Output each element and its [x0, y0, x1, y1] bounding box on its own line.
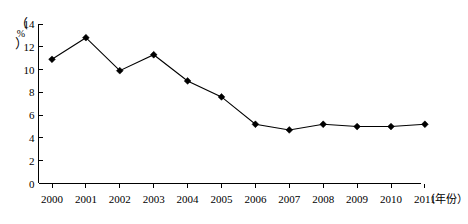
data-point-marker — [49, 56, 56, 63]
y-axis-unit-label: （ % ） — [15, 16, 28, 52]
line-chart: 02468101214 2000200120022003200420052006… — [0, 0, 468, 224]
data-point-marker — [354, 123, 361, 130]
y-tick-label: 6 — [29, 109, 35, 121]
y-tick-label: 10 — [24, 64, 36, 76]
data-point-marker — [388, 123, 395, 130]
x-tick-label: 2010 — [380, 193, 403, 205]
x-tick-label: 2005 — [211, 193, 234, 205]
x-axis: 2000200120022003200420052006200720082009… — [39, 184, 436, 205]
x-axis-caption: （年份） — [424, 192, 468, 205]
x-tick-label: 2000 — [41, 193, 64, 205]
x-tick-label: 2009 — [346, 193, 369, 205]
x-tick-label: 2004 — [177, 193, 200, 205]
x-tick-label: 2008 — [312, 193, 335, 205]
y-tick-label: 4 — [29, 132, 35, 144]
x-tick-label: 2002 — [109, 193, 131, 205]
chart-canvas: 02468101214 2000200120022003200420052006… — [0, 0, 468, 224]
y-unit-close-paren: ） — [15, 36, 28, 51]
data-point-marker — [422, 121, 429, 128]
data-point-marker — [286, 127, 293, 134]
y-tick-label: 2 — [29, 155, 35, 167]
data-point-marker — [320, 121, 327, 128]
x-tick-label: 2007 — [278, 193, 301, 205]
data-series-line — [52, 38, 425, 130]
y-tick-marks — [39, 24, 43, 184]
x-tick-labels: 2000200120022003200420052006200720082009… — [41, 193, 436, 205]
x-tick-label: 2001 — [75, 193, 97, 205]
x-tick-label: 2003 — [143, 193, 166, 205]
y-tick-label: 8 — [29, 86, 35, 98]
y-tick-label: 0 — [29, 178, 35, 190]
x-tick-label: 2006 — [244, 193, 267, 205]
x-tick-marks — [52, 184, 425, 188]
data-point-markers — [49, 34, 429, 133]
